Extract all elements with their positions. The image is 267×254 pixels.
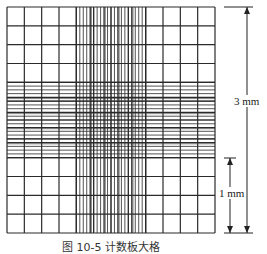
figure-caption: 图 10-5 计数板大格: [0, 238, 222, 254]
label-3mm: 3 mm: [233, 95, 260, 107]
dimension-arrows: [224, 7, 253, 233]
label-1mm: 1 mm: [218, 187, 245, 199]
counting-grid: [7, 7, 215, 233]
